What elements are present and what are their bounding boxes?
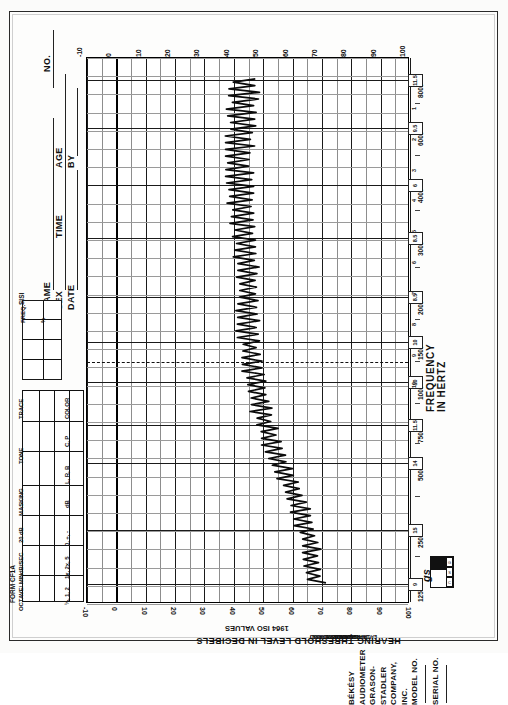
octave-index-number: 8 bbox=[417, 320, 420, 326]
field-label-date: DATE bbox=[76, 300, 101, 310]
sisi-column-header: % bbox=[46, 317, 51, 323]
trace-table-header: TONE bbox=[24, 458, 40, 464]
form-number: FORM CF1A bbox=[16, 596, 54, 603]
iso-asa-correction-box: 8.5 bbox=[408, 232, 423, 245]
field-rule-time[interactable] bbox=[65, 150, 66, 224]
field-label-time: TIME bbox=[64, 228, 87, 238]
octave-index-number: 5 bbox=[417, 227, 420, 233]
db-tick-label-bottom: 70 bbox=[324, 607, 332, 614]
octave-index-number: 10 bbox=[417, 382, 423, 388]
sisi-row-divider[interactable] bbox=[23, 359, 61, 360]
db-tick-label: 0 bbox=[112, 50, 116, 57]
octave-index-number: 1 bbox=[417, 104, 420, 110]
frequency-tick-label: 4000 bbox=[424, 196, 438, 203]
field-rule-no[interactable] bbox=[53, 30, 54, 88]
field-rule-age[interactable] bbox=[65, 74, 66, 156]
trace-table-subheader: COLOR bbox=[70, 413, 91, 419]
brand-block: BÉKÉSY AUDIOMETER GRASON-STADLER COMPANY… bbox=[452, 600, 508, 705]
model-serial-line[interactable]: MODEL NO.SERIAL NO. bbox=[410, 649, 452, 705]
octave-index-number: 9 bbox=[417, 351, 420, 357]
trace-table-column-divider bbox=[23, 451, 83, 452]
iso-asa-correction-box: 6 bbox=[408, 179, 423, 192]
trace-table-header: TRACE bbox=[24, 413, 44, 419]
grason-stadler-logo: gs GSC bbox=[430, 556, 454, 588]
octave-index-number: 6 bbox=[417, 258, 420, 264]
field-rule-by[interactable] bbox=[77, 88, 78, 156]
db-tick-label-bottom: 50 bbox=[265, 607, 273, 614]
trace-table-header: OCTAVE/ MIN bbox=[24, 605, 61, 611]
frequency-tick-label: 250 bbox=[424, 541, 435, 548]
field-rule-name[interactable] bbox=[53, 118, 54, 290]
trace-table-subheader: C, P bbox=[70, 441, 81, 447]
iso-asa-correction-box: 14 bbox=[408, 457, 423, 470]
trace-table-row-divider[interactable] bbox=[54, 391, 55, 601]
brand-company-name: GRASON-STADLER COMPANY, INC. bbox=[368, 649, 410, 705]
iso-asa-correction-box: 15 bbox=[408, 524, 423, 537]
octave-index-number: 3 bbox=[417, 166, 420, 172]
trace-table-column-divider bbox=[23, 485, 83, 486]
frequency-tick-label: 6000 bbox=[424, 139, 438, 146]
serial-no-rule[interactable] bbox=[445, 665, 447, 703]
logo-sub-block: G bbox=[446, 557, 453, 567]
sisi-table[interactable]: FREQ.% bbox=[22, 300, 62, 380]
iso-values-subtitle: 1964 ISO VALUES bbox=[225, 624, 289, 633]
iso-asa-correction-box: 11.5 bbox=[408, 419, 423, 432]
db-tick-label-bottom: 0 bbox=[118, 607, 122, 614]
db-tick-label: 90 bbox=[377, 50, 384, 57]
trace-table-subheader: ¼, 1, 2 bbox=[70, 599, 88, 605]
form-number-text: FORM CF1A bbox=[9, 565, 16, 603]
db-tick-label-bottom: 20 bbox=[177, 607, 185, 614]
db-tick-label: 50 bbox=[259, 50, 266, 57]
trace-table-header: 20 dB bbox=[24, 537, 40, 543]
sisi-title: SISI bbox=[25, 298, 37, 305]
db-tick-label-bottom: 10 bbox=[148, 607, 156, 614]
db-tick-label: 80 bbox=[347, 50, 354, 57]
frequency-tick-label: 750 bbox=[424, 436, 435, 443]
db-tick-label: 40 bbox=[230, 50, 237, 57]
frequency-tick-label: 2000 bbox=[424, 308, 438, 315]
frequency-axis-title-text: FREQUENCY IN HERTZ bbox=[425, 344, 447, 412]
frequency-tick-mark-minor bbox=[415, 267, 420, 268]
field-label-by: BY bbox=[76, 158, 89, 168]
octave-index-number: 7 bbox=[417, 289, 420, 295]
iso-asa-note-text: TO CONVERT ISOREADINGS TO ASAREADINGS SU… bbox=[343, 580, 377, 634]
logo-gs-text: gs bbox=[420, 568, 432, 582]
frequency-tick-mark-minor bbox=[415, 556, 420, 557]
db-tick-label: 70 bbox=[318, 50, 325, 57]
logo-sub-blocks: GSC bbox=[446, 557, 453, 587]
db-tick-label: -10 bbox=[83, 50, 93, 57]
iso-asa-note: TO CONVERT ISOREADINGS TO ASAREADINGS SU… bbox=[377, 600, 431, 634]
logo-sub-block: C bbox=[446, 577, 453, 587]
db-tick-label: 60 bbox=[289, 50, 296, 57]
frequency-tick-label: 8000 bbox=[424, 91, 438, 98]
trace-table-subheader: dB bbox=[70, 502, 78, 508]
trace-table-subheader: L, R, B bbox=[70, 478, 88, 484]
trace-table-header: dB/SEC bbox=[24, 568, 45, 574]
db-tick-label: 20 bbox=[171, 50, 178, 57]
model-no-rule[interactable] bbox=[424, 665, 426, 703]
frequency-axis-title: FREQUENCY IN HERTZ bbox=[447, 390, 508, 412]
serial-no-label: SERIAL NO. bbox=[431, 657, 440, 705]
frequency-tick-mark-minor bbox=[415, 210, 420, 211]
trace-polyline bbox=[225, 79, 326, 583]
frequency-tick-label: 3000 bbox=[424, 249, 438, 256]
db-tick-label-bottom: -10 bbox=[89, 607, 99, 614]
model-no-label: MODEL NO. bbox=[410, 658, 419, 705]
octave-index-number: 4 bbox=[417, 196, 420, 202]
trace-table-column-divider bbox=[23, 421, 83, 422]
logo-black-block bbox=[431, 557, 446, 570]
logo-gs-mark: gs bbox=[432, 570, 446, 586]
frequency-tick-mark-minor bbox=[415, 496, 420, 497]
trace-table-subheader: 1x, 2x, 5 bbox=[70, 573, 92, 579]
iso-asa-correction-box: 11.5 bbox=[408, 74, 423, 87]
frequency-tick-label: 500 bbox=[424, 474, 435, 481]
frequency-tick-mark-minor bbox=[415, 361, 420, 362]
iso-asa-note-line: EACH FREQUENCY. bbox=[323, 634, 377, 640]
iso-asa-correction-box: 9.5 bbox=[408, 122, 423, 135]
frequency-tick-mark-minor bbox=[415, 155, 420, 156]
logo-sub-block: S bbox=[446, 567, 453, 577]
db-tick-label-bottom: 30 bbox=[206, 607, 214, 614]
sisi-row-divider[interactable] bbox=[23, 339, 61, 340]
db-tick-label: 10 bbox=[142, 50, 149, 57]
